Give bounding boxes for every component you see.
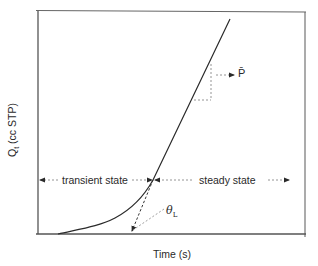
- steady-state-label: steady state: [199, 174, 256, 186]
- top-border: [36, 11, 306, 13]
- theta-symbol: θ: [166, 204, 173, 217]
- y-axis-label-sub: t: [13, 147, 20, 149]
- permeability-slope-label: P̄: [238, 67, 245, 79]
- y-axis-label-units: (cc STP): [6, 103, 18, 147]
- transient-state-label: transient state: [62, 174, 128, 186]
- x-axis-label: Time (s): [153, 248, 191, 260]
- time-lag-label: θL: [166, 204, 177, 219]
- time-lag-diagram: [0, 0, 318, 266]
- theta-subscript: L: [173, 211, 178, 219]
- plot-frame: [36, 10, 306, 237]
- theta-pointer-line: [133, 209, 164, 230]
- y-axis-label-main: Q: [6, 149, 18, 157]
- y-axis-label: Qt (cc STP): [6, 103, 20, 157]
